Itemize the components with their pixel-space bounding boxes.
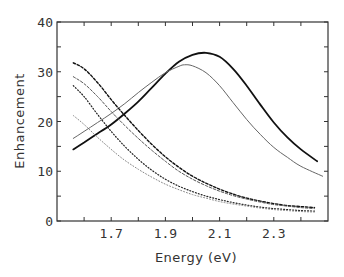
x-axis-title: Energy (eV): [155, 250, 237, 265]
series-thick-solid: [73, 53, 317, 162]
x-tick-label: 1.9: [154, 226, 177, 241]
data-series: [73, 53, 322, 212]
x-tick-label: 1.7: [99, 226, 122, 241]
x-tick-label: 2.1: [208, 226, 231, 241]
series-thin-solid: [73, 65, 322, 176]
y-tick-label: 10: [37, 164, 53, 179]
y-tick-label: 20: [37, 115, 53, 130]
axis-tick-labels: 1.71.92.12.3010203040: [37, 15, 285, 241]
series-heavy-dashed: [73, 63, 314, 208]
y-tick-label: 40: [37, 15, 53, 30]
y-axis-title: Enhancement: [12, 73, 27, 169]
x-tick-label: 2.3: [262, 226, 285, 241]
y-tick-label: 30: [37, 65, 53, 80]
y-tick-label: 0: [45, 214, 53, 229]
enhancement-vs-energy-chart: 1.71.92.12.3010203040 Energy (eV) Enhanc…: [0, 0, 344, 277]
